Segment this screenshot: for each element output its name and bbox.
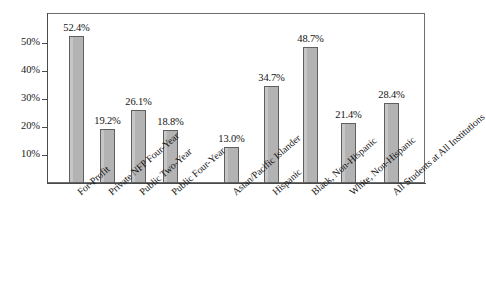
bar-value-label: 18.8% (157, 116, 183, 127)
y-tick-label: 30% (0, 93, 40, 104)
bar-highlight (385, 104, 388, 182)
bar-value-label: 48.7% (297, 33, 323, 44)
y-tick-label: 20% (0, 121, 40, 132)
bar-value-label: 13.0% (218, 133, 244, 144)
bar-value-label: 28.4% (378, 89, 404, 100)
bar-value-label: 19.2% (94, 115, 120, 126)
bar (303, 47, 318, 183)
bar-highlight (70, 37, 73, 182)
bar-value-label: 21.4% (335, 109, 361, 120)
bar-highlight (304, 48, 307, 182)
bar-value-label: 34.7% (258, 72, 284, 83)
bar (384, 103, 399, 183)
bar-value-label: 26.1% (125, 96, 151, 107)
y-tick-label: 50% (0, 37, 40, 48)
bar (69, 36, 84, 183)
bars-layer (47, 13, 425, 183)
y-tick-label: 10% (0, 149, 40, 160)
y-tick-label: 40% (0, 65, 40, 76)
bar-value-label: 52.4% (63, 22, 89, 33)
